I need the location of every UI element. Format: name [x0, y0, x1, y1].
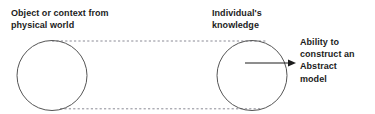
right-circle: [217, 41, 287, 111]
output-arrow-head: [288, 60, 296, 67]
label-object-or-context: Object or context from physical world: [11, 7, 161, 31]
label-ability-abstract-model: Ability to construct an Abstract model: [300, 36, 375, 85]
left-circle: [17, 41, 87, 111]
label-individual-knowledge: Individual's knowledge: [212, 7, 308, 31]
concept-diagram: Object or context from physical world In…: [0, 0, 375, 114]
